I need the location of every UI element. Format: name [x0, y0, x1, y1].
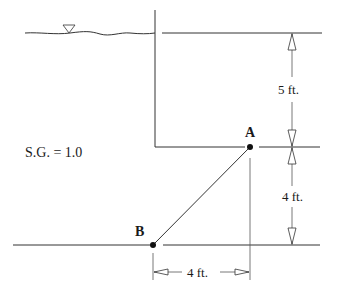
point-A-label: A: [245, 125, 256, 140]
arrow-down-icon: [288, 228, 296, 244]
dimension-label-5ft: 5 ft.: [278, 82, 299, 97]
arrow-up-icon: [288, 34, 296, 50]
water-surface-left: [25, 32, 155, 35]
specific-gravity-label: S.G. = 1.0: [25, 145, 82, 160]
water-surface-icon: [63, 25, 75, 33]
dimension-A-to-bottom: 4 ft.: [282, 147, 303, 245]
arrow-up-icon: [288, 148, 296, 164]
dimension-label-4ft-vertical: 4 ft.: [282, 189, 303, 204]
dimension-B-to-A-horizontal: 4 ft.: [153, 158, 250, 280]
point-A-marker: [247, 144, 253, 150]
inclined-gate: [153, 147, 250, 245]
point-B-label: B: [135, 224, 144, 239]
dimension-surface-to-A: 5 ft.: [278, 33, 299, 147]
arrow-down-icon: [288, 130, 296, 146]
arrow-left-icon: [154, 269, 168, 275]
arrow-right-icon: [235, 269, 249, 275]
point-B-marker: [150, 242, 156, 248]
dimension-label-4ft-horizontal: 4 ft.: [187, 265, 208, 280]
fluid-statics-diagram: A B S.G. = 1.0 5 ft. 4 ft. 4 ft.: [0, 0, 339, 296]
